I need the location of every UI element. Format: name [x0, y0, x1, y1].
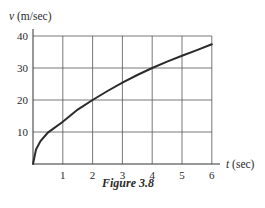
- x-tick-label: 2: [90, 169, 96, 181]
- x-tick-label: 1: [60, 169, 66, 181]
- y-axis-variable: v: [9, 10, 15, 22]
- x-axis-label: t (sec): [226, 158, 255, 171]
- y-axis-unit: (m/sec): [17, 10, 52, 23]
- y-tick-label: 20: [17, 94, 29, 106]
- x-tick-label: 6: [209, 169, 215, 181]
- axes: [33, 29, 220, 164]
- y-axis-label: v (m/sec): [9, 10, 52, 23]
- velocity-time-chart: 10203040 123456 v (m/sec) t (sec) Figure…: [0, 0, 265, 208]
- y-tick-label: 10: [17, 126, 29, 138]
- y-tick-label: 30: [17, 62, 29, 74]
- figure-caption: Figure 3.8: [101, 176, 154, 190]
- y-tick-labels: 10203040: [17, 30, 29, 138]
- y-tick-label: 40: [17, 30, 29, 42]
- x-tick-label: 5: [179, 169, 185, 181]
- x-axis-unit: (sec): [232, 158, 255, 171]
- x-axis-variable: t: [226, 158, 230, 170]
